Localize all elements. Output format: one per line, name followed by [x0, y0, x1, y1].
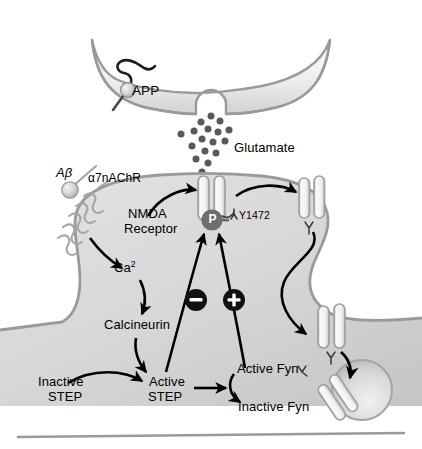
- calcium-label-superscript: 2: [131, 259, 136, 269]
- calcium-label: Ca2: [114, 260, 136, 276]
- calcineurin-label: Calcineurin: [104, 318, 170, 333]
- presynaptic-terminal: [92, 40, 330, 114]
- nmda-receptor-label-line1: NMDA: [128, 207, 167, 222]
- synapse-diagram: APP Glutamate Aβ α7nAChR NMDA Receptor P…: [0, 0, 422, 449]
- negative-sign-badge: [185, 289, 207, 311]
- app-label: APP: [132, 83, 159, 98]
- inactive-step-label-line1: Inactive: [38, 375, 84, 390]
- glutamate-dots: [178, 113, 233, 183]
- positive-sign-badge: [223, 289, 245, 311]
- presynaptic-membrane: [92, 40, 330, 114]
- calcium-label-base: Ca: [114, 260, 131, 275]
- inactive-fyn-label: Inactive Fyn: [238, 400, 309, 415]
- ampar-extrasynaptic-subunit-left: [318, 306, 329, 348]
- glutamate-label: Glutamate: [234, 141, 295, 156]
- y1472-label: Y1472: [239, 210, 270, 222]
- inactive-step-label-line2: STEP: [48, 390, 82, 405]
- phospho-letter: P: [208, 213, 217, 226]
- active-fyn-label: Active Fyn: [237, 362, 299, 377]
- dendrite-baseline: [18, 433, 404, 437]
- plus-glyph-vertical: [232, 293, 235, 306]
- ampar-extrasynaptic-subunit-right: [334, 304, 345, 348]
- ampar-synaptic-subunit-right: [314, 176, 325, 218]
- abeta-sphere: [62, 182, 78, 198]
- ampar-synaptic-subunit-left: [299, 178, 310, 218]
- active-step-label-line1: Active: [149, 375, 185, 390]
- minus-glyph: [190, 298, 203, 301]
- a7nachr-label: α7nAChR: [88, 172, 141, 185]
- nmda-receptor-label-line2: Receptor: [124, 222, 178, 237]
- active-step-label-line2: STEP: [148, 390, 182, 405]
- abeta-label: Aβ: [56, 166, 72, 181]
